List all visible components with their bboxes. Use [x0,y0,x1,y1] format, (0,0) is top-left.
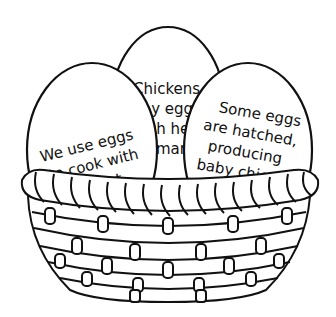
center-egg-line-4: mar [156,140,187,158]
egg-basket-illustration: Chickens ay eggs ch he mar We use eggs t… [0,0,336,317]
